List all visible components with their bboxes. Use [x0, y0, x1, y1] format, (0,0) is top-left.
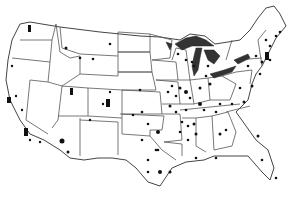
us-map: [0, 0, 296, 200]
us-outline: [6, 6, 286, 186]
